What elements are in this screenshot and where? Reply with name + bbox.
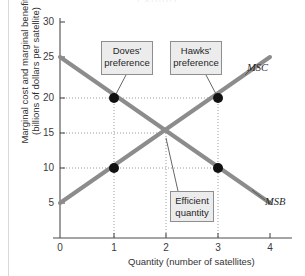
callout-doves-line2: preference bbox=[104, 57, 150, 69]
marker-hawks-msb bbox=[213, 163, 223, 173]
ytick-label-5: 5 bbox=[30, 197, 54, 208]
curve-label-msb: MSB bbox=[265, 196, 285, 207]
callout-efficient-line1: Efficient bbox=[173, 195, 211, 207]
curve-label-leaders bbox=[245, 64, 265, 200]
chart-figure: EXHIBIT bbox=[0, 0, 305, 276]
xtick-label-0: 0 bbox=[52, 242, 68, 253]
marker-doves-msc bbox=[109, 163, 119, 173]
leader-hawks bbox=[206, 75, 216, 94]
xtick-label-1: 1 bbox=[106, 242, 122, 253]
y-axis-label-line1: Marginal cost and marginal benefit bbox=[19, 0, 30, 156]
xtick-label-4: 4 bbox=[262, 242, 278, 253]
callout-doves-line1: Doves' bbox=[104, 45, 150, 57]
callout-hawks-preference: Hawks' preference bbox=[170, 41, 222, 75]
callout-hawks-line1: Hawks' bbox=[173, 45, 219, 57]
leader-efficient bbox=[166, 138, 178, 191]
callout-efficient-line2: quantity bbox=[173, 207, 211, 219]
callout-doves-preference: Doves' preference bbox=[101, 41, 153, 75]
y-axis-label-line2: (billions of dollars per satellite) bbox=[30, 0, 41, 156]
curve-label-msc: MSC bbox=[247, 62, 268, 73]
callout-hawks-line2: preference bbox=[173, 57, 219, 69]
marker-hawks-msc bbox=[213, 93, 223, 103]
ytick-label-10: 10 bbox=[30, 162, 54, 173]
y-axis-label: Marginal cost and marginal benefit (bill… bbox=[19, 0, 41, 156]
xtick-label-2: 2 bbox=[158, 242, 174, 253]
leader-msb bbox=[252, 190, 265, 200]
marker-doves-msb bbox=[109, 93, 119, 103]
leader-doves bbox=[116, 75, 126, 94]
callout-efficient-quantity: Efficient quantity bbox=[170, 191, 214, 222]
xtick-label-3: 3 bbox=[210, 242, 226, 253]
x-axis-label: Quantity (number of satellites) bbox=[128, 256, 255, 267]
